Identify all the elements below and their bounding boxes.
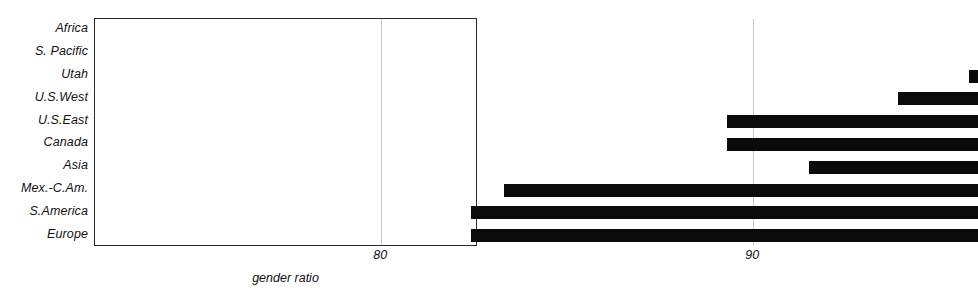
y-label-africa: Africa (0, 22, 88, 35)
y-label-mex-c-am: Mex.-C.Am. (0, 182, 88, 195)
y-label-u-s-west: U.S.West (0, 91, 88, 104)
gridline-80 (381, 19, 382, 245)
bar-europe (471, 229, 978, 242)
x-axis-title: gender ratio (94, 271, 477, 285)
y-label-europe: Europe (0, 228, 88, 241)
x-tick-label-80: 80 (373, 248, 387, 263)
y-label-asia: Asia (0, 159, 88, 172)
x-axis-tick-labels: 8090100110120 (94, 248, 477, 266)
bar-utah (969, 70, 978, 83)
bar-canada (727, 138, 978, 151)
plot-inner (95, 19, 476, 245)
bar-u-s-east (727, 115, 978, 128)
y-label-canada: Canada (0, 136, 88, 149)
y-label-s-pacific: S. Pacific (0, 45, 88, 58)
y-label-u-s-east: U.S.East (0, 114, 88, 127)
y-label-utah: Utah (0, 68, 88, 81)
bar-asia (809, 161, 978, 174)
x-tick-label-90: 90 (745, 248, 759, 263)
y-label-s-america: S.America (0, 205, 88, 218)
plot-area (94, 18, 477, 246)
bar-s-america (471, 206, 978, 219)
y-axis-category-labels: AfricaS. PacificUtahU.S.WestU.S.EastCana… (0, 18, 88, 246)
bar-u-s-west (898, 92, 978, 105)
bar-mex-c-am (504, 184, 978, 197)
